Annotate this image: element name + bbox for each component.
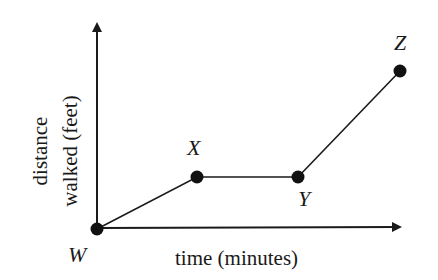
label-w: W xyxy=(68,242,88,267)
point-w xyxy=(91,223,104,236)
distance-time-graph: W X Y Z time (minutes) distance walked (… xyxy=(0,0,438,280)
label-x: X xyxy=(186,135,202,160)
x-axis xyxy=(97,227,400,228)
y-axis-label-line1: distance xyxy=(28,117,52,186)
label-y: Y xyxy=(298,186,313,211)
x-axis-label: time (minutes) xyxy=(175,246,298,270)
y-axis-label-line2: walked (feet) xyxy=(58,95,82,206)
point-z xyxy=(394,65,407,78)
label-z: Z xyxy=(394,30,407,55)
point-y xyxy=(292,171,305,184)
point-x xyxy=(191,171,204,184)
data-line xyxy=(97,71,400,229)
